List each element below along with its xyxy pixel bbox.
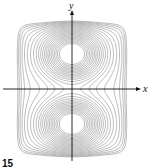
- x-axis-arrow-icon: [136, 87, 141, 91]
- figure-number: 15: [2, 159, 13, 168]
- x-axis-label: x: [143, 84, 147, 94]
- contour-plot: [0, 0, 150, 168]
- y-axis-label: y: [69, 1, 73, 11]
